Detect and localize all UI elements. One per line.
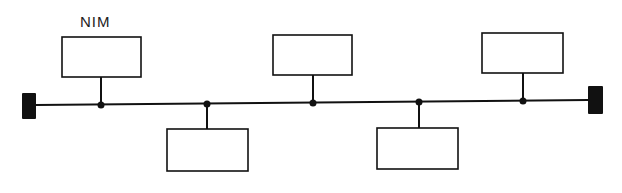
- node-2-junction-dot: [204, 101, 211, 108]
- right-terminator-icon: [588, 86, 603, 114]
- nim-label: NIM: [80, 13, 111, 30]
- bus-network-diagram: NIM: [0, 0, 622, 193]
- node-5-box: [482, 33, 563, 73]
- node-5-junction-dot: [520, 98, 527, 105]
- node-3-junction-dot: [310, 100, 317, 107]
- node-4-junction-dot: [416, 99, 423, 106]
- node-4-box: [377, 128, 458, 169]
- left-terminator-icon: [22, 93, 36, 119]
- node-3-box: [273, 35, 352, 75]
- node-2-box: [167, 129, 248, 171]
- node-1-box: [62, 37, 141, 77]
- node-1-junction-dot: [98, 102, 105, 109]
